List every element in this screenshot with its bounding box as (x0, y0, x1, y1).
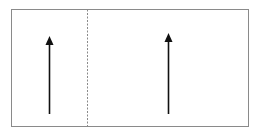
right-arrow (165, 33, 173, 114)
arrowhead-up-icon (46, 36, 54, 45)
diagram-canvas (0, 0, 257, 137)
left-arrow (46, 36, 54, 114)
arrowhead-up-icon (165, 33, 173, 42)
frame-box (12, 10, 249, 127)
